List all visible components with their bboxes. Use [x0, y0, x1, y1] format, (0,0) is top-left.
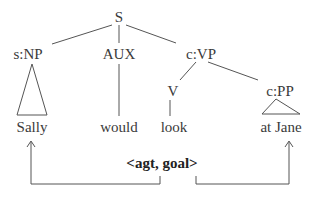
leaf-at-jane: at Jane	[260, 119, 302, 135]
edge-s-vp	[126, 25, 176, 43]
edge-vp-v	[180, 62, 196, 80]
node-pp: c:PP	[266, 83, 294, 99]
goal-arrow-line	[196, 142, 289, 184]
node-s: S	[115, 9, 123, 25]
leaf-look: look	[161, 119, 188, 135]
node-aux: AUX	[103, 46, 136, 62]
syntax-tree-diagram: S s:NP AUX c:VP V c:PP Sally would look …	[0, 0, 312, 199]
role-frame-label: <agt, goal>	[126, 155, 197, 171]
node-verb: V	[168, 83, 179, 99]
node-subject-np: s:NP	[13, 46, 42, 62]
leaf-sally: Sally	[17, 119, 48, 135]
np-triangle	[17, 64, 47, 115]
pp-triangle	[262, 99, 300, 114]
node-vp: c:VP	[186, 46, 216, 62]
edge-vp-pp	[208, 62, 258, 80]
leaf-would: would	[100, 119, 138, 135]
edge-s-np	[52, 25, 112, 44]
